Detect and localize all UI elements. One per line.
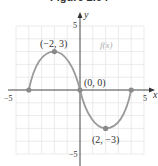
y-max-tick: 5 <box>73 21 77 30</box>
y-axis-arrow-icon <box>78 12 83 18</box>
point-label-min: (2, −3) <box>92 134 119 146</box>
curve-label: f(x) <box>100 40 113 50</box>
y-axis-label: y <box>83 9 89 20</box>
y-min-tick: −5 <box>69 150 78 159</box>
x-axis-label: x <box>152 89 158 100</box>
graph: y x 5 −5 −5 5 f(x) (−2, 3) (0, 0) (2, −3… <box>0 0 158 166</box>
x-min-tick: −5 <box>4 94 13 103</box>
x-max-tick: 5 <box>143 94 147 103</box>
point-label-origin: (0, 0) <box>84 77 106 89</box>
point-label-max: (−2, 3) <box>40 38 67 50</box>
